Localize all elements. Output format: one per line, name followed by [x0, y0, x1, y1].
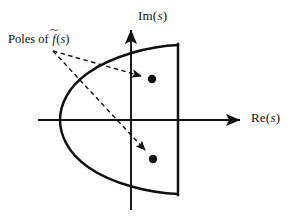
complex-plane-figure: Im(s) Re(s) Poles of ~f(s)	[0, 0, 296, 219]
real-axis-label: Re(s)	[251, 110, 280, 126]
poles-label-prefix: Poles of	[8, 32, 52, 46]
real-axis-label-prefix: Re(	[251, 110, 270, 125]
imaginary-axis-label-close: )	[163, 8, 168, 23]
real-axis-label-close: )	[276, 110, 281, 125]
poles-label-close-paren: )	[65, 32, 69, 46]
pole-upper-marker	[148, 75, 156, 83]
pole-lower-marker	[149, 155, 157, 163]
tilde-accent-icon: ~	[49, 24, 58, 35]
imaginary-axis-label: Im(s)	[138, 8, 167, 24]
poles-annotation-label: Poles of ~f(s)	[8, 32, 69, 47]
imaginary-axis-label-prefix: Im(	[138, 8, 157, 23]
poles-label-function-wrap: ~f	[52, 32, 56, 47]
